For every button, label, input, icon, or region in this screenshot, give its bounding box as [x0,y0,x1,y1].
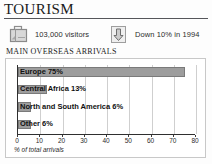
page-title: TOURISM [4,0,208,17]
bar-row: North and South America 6% [18,100,196,118]
title-divider [4,18,208,19]
bar-row: Other 6% [18,118,196,136]
tick-label: 60 [147,137,154,144]
bar-series: Europe 75%Central Africa 13%North and So… [18,65,195,134]
tick-label: 0 [15,137,19,144]
bar-label: North and South America 6% [20,102,123,112]
bar-label: Other 6% [20,119,53,129]
bar-chart-panel: Europe 75%Central Africa 13%North and So… [5,58,206,158]
tourism-infographic: TOURISM 103,000 visitors [0,0,212,164]
tick-label: 70 [169,137,176,144]
plot-area: Europe 75%Central Africa 13%North and So… [17,65,195,135]
down-arrow-icon [108,24,129,45]
stats-row: 103,000 visitors Down 10% in 1994 [6,21,210,47]
tick-label: 80 [191,137,198,144]
tick-label: 40 [102,137,109,144]
tick-label: 10 [36,137,43,144]
bar-row: Central Africa 13% [18,83,196,101]
bar-label: Europe 75% [20,67,63,77]
stat-visitors-label: 103,000 visitors [35,30,89,39]
bar-row: Europe 75% [18,65,196,83]
stat-decline-label: Down 10% in 1994 [135,30,200,39]
title-block: TOURISM [4,0,208,19]
stat-visitors: 103,000 visitors [8,21,89,47]
tick-label: 30 [80,137,87,144]
tick-label: 20 [58,137,65,144]
suitcase-icon [8,24,29,45]
x-axis: 01020304050607080 [17,136,195,145]
x-axis-label: % of total arrivals [14,146,64,153]
tick-label: 50 [125,137,132,144]
section-heading: MAIN OVERSEAS ARRIVALS [6,47,117,56]
gridline [196,65,197,134]
stat-decline: Down 10% in 1994 [108,21,200,47]
bar-label: Central Africa 13% [20,84,86,94]
